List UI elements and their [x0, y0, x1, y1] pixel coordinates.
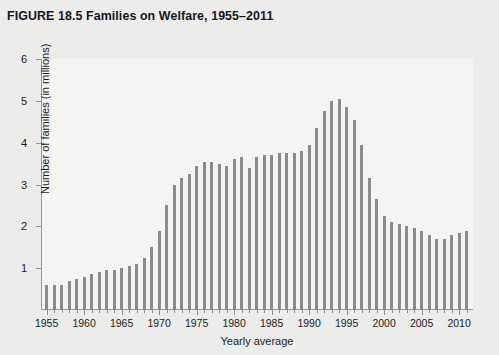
x-tick-2008	[444, 310, 445, 313]
x-tick-2000	[384, 310, 385, 315]
x-tick-label: 1965	[110, 317, 133, 329]
x-tick-label: 1985	[260, 317, 283, 329]
x-tick-2010	[459, 310, 460, 315]
x-tick-2011	[467, 310, 468, 313]
x-tick-1996	[354, 310, 355, 313]
x-tick-1989	[302, 310, 303, 313]
y-tick-2: 2	[36, 226, 41, 227]
x-tick-1992	[324, 310, 325, 313]
bar	[113, 270, 116, 310]
y-tick-label: 3	[21, 179, 27, 191]
chart-plot-area: 123456 195519601965197019751980198519901…	[41, 59, 473, 310]
bar	[195, 166, 198, 310]
bar	[383, 216, 386, 310]
x-tick-2006	[429, 310, 430, 313]
bar	[330, 101, 333, 310]
bar	[278, 153, 281, 310]
x-tick-1959	[77, 310, 78, 313]
x-tick-label: 1960	[72, 317, 95, 329]
x-tick-label: 2005	[410, 317, 433, 329]
bar	[173, 185, 176, 311]
x-tick-2007	[437, 310, 438, 313]
x-tick-2005	[422, 310, 423, 315]
bar	[428, 235, 431, 310]
bar	[435, 239, 438, 310]
bar	[315, 128, 318, 310]
bar	[143, 258, 146, 310]
bar	[465, 231, 468, 310]
x-tick-1962	[99, 310, 100, 313]
bar	[165, 205, 168, 310]
bar	[203, 162, 206, 311]
bar	[60, 285, 63, 310]
bar	[75, 279, 78, 310]
x-tick-1977	[212, 310, 213, 313]
x-tick-1994	[339, 310, 340, 313]
x-tick-1970	[159, 310, 160, 315]
x-tick-1976	[204, 310, 205, 313]
x-tick-1982	[249, 310, 250, 313]
x-tick-1990	[309, 310, 310, 315]
bar	[53, 285, 56, 310]
x-tick-label: 1980	[222, 317, 245, 329]
bar	[240, 157, 243, 310]
bar	[450, 235, 453, 310]
x-tick-1983	[257, 310, 258, 313]
bar	[390, 222, 393, 310]
x-tick-label: 1990	[297, 317, 320, 329]
x-tick-1972	[174, 310, 175, 313]
bar	[225, 166, 228, 310]
bar	[90, 274, 93, 310]
x-tick-1999	[377, 310, 378, 313]
y-tick-label: 4	[21, 137, 27, 149]
bar	[68, 281, 71, 310]
x-tick-1984	[264, 310, 265, 313]
bar	[120, 268, 123, 310]
x-tick-1971	[167, 310, 168, 313]
x-tick-1987	[287, 310, 288, 313]
bar	[158, 231, 161, 310]
x-tick-1963	[107, 310, 108, 313]
bar	[285, 153, 288, 310]
x-tick-2003	[407, 310, 408, 313]
x-tick-1978	[219, 310, 220, 313]
bar	[338, 99, 341, 310]
bar	[98, 272, 101, 310]
figure-container: FIGURE 18.5 Families on Welfare, 1955–20…	[0, 0, 499, 355]
x-tick-1973	[182, 310, 183, 313]
bar	[353, 120, 356, 310]
x-tick-1980	[234, 310, 235, 315]
x-tick-1975	[197, 310, 198, 315]
bar	[263, 155, 266, 310]
x-tick-1967	[137, 310, 138, 313]
bar	[323, 111, 326, 310]
x-tick-1991	[317, 310, 318, 313]
bar	[458, 233, 461, 310]
x-axis-title: Yearly average	[41, 335, 473, 347]
x-tick-1997	[362, 310, 363, 313]
x-tick-label: 1975	[185, 317, 208, 329]
x-tick-1986	[279, 310, 280, 313]
bar	[233, 159, 236, 310]
x-tick-1968	[144, 310, 145, 313]
bar	[398, 224, 401, 310]
bar	[443, 239, 446, 310]
x-tick-2002	[399, 310, 400, 313]
bar	[255, 157, 258, 310]
bar	[135, 264, 138, 310]
x-tick-1998	[369, 310, 370, 313]
x-tick-2004	[414, 310, 415, 313]
bar	[308, 145, 311, 310]
x-tick-2009	[452, 310, 453, 313]
bar	[375, 199, 378, 310]
x-tick-label: 1995	[335, 317, 358, 329]
bar	[420, 231, 423, 310]
x-tick-1974	[189, 310, 190, 313]
x-tick-1969	[152, 310, 153, 313]
bar	[180, 178, 183, 310]
y-tick-label: 1	[21, 262, 27, 274]
bar	[128, 266, 131, 310]
bar	[210, 162, 213, 311]
page-title: FIGURE 18.5 Families on Welfare, 1955–20…	[7, 9, 273, 23]
bar	[270, 155, 273, 310]
